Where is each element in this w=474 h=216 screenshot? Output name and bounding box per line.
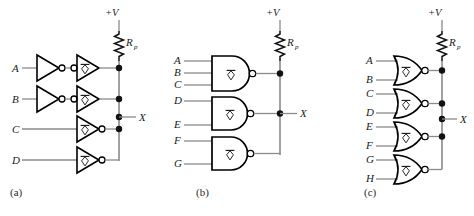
- pullup-resistor-c: [438, 31, 447, 61]
- input-label-c-D: D: [365, 106, 374, 118]
- nor-bubble-c-1: [422, 67, 428, 73]
- input-label-a-B: B: [12, 93, 19, 105]
- junction-dot-a-4: [116, 126, 122, 132]
- gate-c-3: E F: [365, 120, 445, 151]
- input-bubble-a-A2: [71, 65, 77, 71]
- open-drain-icon-c-1: [402, 67, 411, 77]
- junction-dot-b-1: [277, 70, 283, 76]
- input-label-c-B: B: [366, 73, 373, 85]
- output-tap-a: X: [116, 111, 147, 123]
- input-label-c-C: C: [366, 87, 374, 99]
- junction-dot-c-1: [439, 67, 445, 73]
- input-label-c-E: E: [365, 120, 373, 132]
- output-label-b: X: [299, 107, 308, 119]
- junction-dot-a-2: [116, 96, 122, 102]
- open-drain-icon-a-C: [81, 125, 90, 135]
- supply-label-a: +V: [105, 7, 120, 18]
- input-label-c-A: A: [365, 54, 373, 66]
- caption-c: (c): [364, 186, 377, 199]
- input-label-a-A: A: [11, 62, 19, 74]
- nand-bubble-b-3: [247, 150, 253, 156]
- circuit-diagram-svg: +V R p A B C D: [0, 0, 474, 216]
- open-drain-icon-c-4: [402, 166, 411, 176]
- nand-gate-b-2: [212, 97, 248, 130]
- open-drain-icon-c-2: [402, 100, 411, 110]
- output-label-c: X: [459, 113, 468, 125]
- input-label-c-G: G: [366, 153, 374, 165]
- junction-dot-c-2: [439, 100, 445, 106]
- output-label-a: X: [138, 111, 147, 123]
- input-label-a-C: C: [12, 123, 20, 135]
- caption-b: (b): [196, 186, 209, 199]
- supply-branch-a: +V R p: [105, 7, 138, 61]
- gate-c-1: A B: [365, 54, 445, 85]
- nand-gate-b-3: [212, 137, 248, 170]
- resistor-label-c: R: [448, 36, 456, 48]
- input-label-b-B: B: [174, 66, 181, 78]
- gate-b-2: D E X: [173, 94, 308, 130]
- resistor-label-a: R: [125, 36, 133, 48]
- open-drain-icon-b-3: [226, 150, 235, 160]
- inverter-a-B1: [37, 86, 59, 112]
- input-label-a-D: D: [11, 154, 20, 166]
- input-label-b-D: D: [173, 94, 182, 106]
- input-label-b-E: E: [173, 118, 181, 130]
- nor-bubble-c-3: [422, 133, 428, 139]
- input-label-c-F: F: [365, 139, 373, 151]
- open-drain-icon-c-3: [402, 133, 411, 143]
- supply-label-b: +V: [266, 7, 281, 18]
- nand-gate-b-1: [212, 56, 249, 91]
- row-a-B: [22, 86, 122, 112]
- input-label-b-A: A: [173, 54, 181, 66]
- panel-b: +V R p A B C: [173, 7, 308, 199]
- input-label-b-G: G: [174, 157, 182, 169]
- nand-bubble-b-1: [249, 70, 255, 76]
- supply-branch-b: +V R p: [266, 7, 299, 61]
- open-drain-icon-a-B: [81, 95, 90, 105]
- open-drain-icon-a-A: [81, 64, 90, 74]
- inverter-bubble-a-A1: [59, 65, 65, 71]
- gate-b-3: F G: [173, 134, 280, 170]
- supply-branch-c: +V R p: [428, 7, 461, 61]
- gate-c-4: G H: [365, 153, 442, 184]
- inverter-a-A1: [37, 55, 59, 81]
- input-label-b-F: F: [173, 134, 181, 146]
- input-label-c-H: H: [365, 172, 375, 184]
- row-a-A: [22, 55, 122, 81]
- open-drain-icon-b-2: [226, 110, 235, 120]
- gate-b-1: A B C: [173, 54, 283, 91]
- junction-dot-c-4: [439, 133, 445, 139]
- supply-label-c: +V: [428, 7, 443, 18]
- pullup-resistor-b: [276, 31, 285, 61]
- resistor-label-b: R: [286, 36, 294, 48]
- resistor-sub-a: p: [133, 43, 138, 51]
- output-tap-c: X: [439, 113, 468, 125]
- input-bubble-a-B2: [71, 96, 77, 102]
- junction-dot-a-1: [116, 65, 122, 71]
- inverter-bubble-a-D: [99, 157, 105, 163]
- panel-a: +V R p A B C D: [10, 7, 147, 199]
- resistor-sub-b: p: [294, 43, 299, 51]
- pullup-resistor-a: [115, 31, 124, 61]
- caption-a: (a): [10, 186, 23, 199]
- figure-canvas: +V R p A B C D: [0, 0, 474, 216]
- panel-c: +V R p A B C D: [364, 7, 468, 199]
- open-drain-icon-a-D: [81, 156, 90, 166]
- inverter-bubble-a-B1: [59, 96, 65, 102]
- nor-bubble-c-2: [422, 100, 428, 106]
- inverter-bubble-a-C: [99, 126, 105, 132]
- resistor-sub-c: p: [456, 43, 461, 51]
- open-drain-icon-b-1: [227, 70, 236, 80]
- nor-bubble-c-4: [422, 166, 428, 172]
- row-a-D: [22, 147, 119, 173]
- gate-c-2: C D: [365, 87, 445, 118]
- nand-bubble-b-2: [247, 110, 253, 116]
- row-a-C: [22, 116, 122, 142]
- input-label-b-C: C: [174, 78, 182, 90]
